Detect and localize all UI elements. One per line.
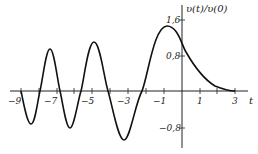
x-tick-label: −9 bbox=[8, 96, 22, 106]
chart: −9 −7 −5 −3 −1 1 3 t 1,6 0,8 −0,8 υ(t)/υ… bbox=[0, 0, 258, 154]
x-tick-label: 3 bbox=[232, 96, 238, 106]
y-tick-label: 0,8 bbox=[166, 51, 181, 61]
y-tick-label: −0,8 bbox=[159, 123, 181, 133]
chart-svg: −9 −7 −5 −3 −1 1 3 t 1,6 0,8 −0,8 υ(t)/υ… bbox=[0, 0, 258, 154]
x-axis-label: t bbox=[249, 95, 254, 106]
series-curve bbox=[21, 26, 235, 140]
y-tick-label: 1,6 bbox=[166, 15, 181, 25]
y-axis-label: υ(t)/υ(0) bbox=[186, 3, 228, 14]
x-tick-label: 1 bbox=[197, 96, 203, 106]
x-tick-label: −5 bbox=[81, 96, 95, 106]
x-tick-label: −7 bbox=[44, 96, 58, 106]
x-tick-label: −3 bbox=[117, 96, 131, 106]
x-tick-label: −1 bbox=[153, 96, 166, 106]
